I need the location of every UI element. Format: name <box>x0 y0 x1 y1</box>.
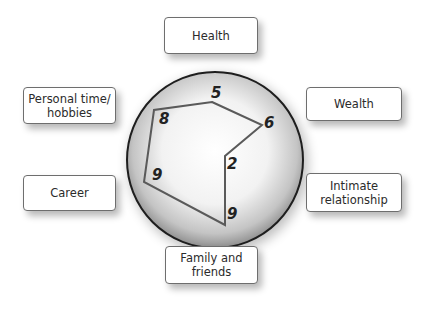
label-health-text: Health <box>192 29 230 43</box>
score-personal: 8 <box>159 110 169 128</box>
score-family: 9 <box>227 205 237 223</box>
score-career: 9 <box>152 166 162 184</box>
label-career: Career <box>23 175 116 211</box>
score-wealth: 6 <box>264 114 274 132</box>
label-personal: Personal time/ hobbies <box>23 87 116 124</box>
label-family: Family and friends <box>165 246 258 284</box>
label-wealth-text: Wealth <box>334 97 374 111</box>
score-intimate: 2 <box>227 155 237 173</box>
label-health: Health <box>164 17 258 54</box>
score-health: 5 <box>211 84 221 102</box>
label-intimate-text: Intimate relationship <box>320 179 388 207</box>
label-wealth: Wealth <box>306 87 402 121</box>
label-personal-text: Personal time/ hobbies <box>28 92 110 120</box>
label-intimate: Intimate relationship <box>306 173 402 212</box>
label-career-text: Career <box>50 186 88 200</box>
label-family-text: Family and friends <box>180 251 242 279</box>
